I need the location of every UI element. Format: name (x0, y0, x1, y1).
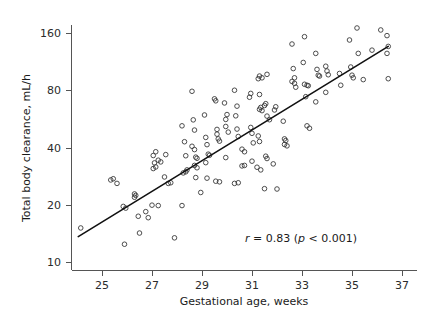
data-point (313, 100, 318, 105)
data-point (150, 203, 155, 208)
data-point (146, 215, 151, 220)
data-point (182, 139, 187, 144)
data-point (115, 181, 120, 186)
data-point (122, 242, 127, 247)
data-point (180, 124, 185, 129)
data-point (215, 132, 220, 137)
data-point (235, 104, 240, 109)
data-point (137, 231, 142, 236)
data-point (356, 51, 361, 56)
regression-line (78, 46, 388, 236)
data-point (195, 156, 200, 161)
data-point (262, 186, 267, 191)
data-points-layer (78, 26, 390, 247)
data-point (258, 168, 263, 173)
data-point (191, 118, 196, 123)
data-point (136, 214, 141, 219)
r-value-text: = 0.83 ( (250, 232, 299, 245)
data-point (192, 128, 197, 133)
data-point (317, 74, 322, 79)
data-point (193, 175, 198, 180)
data-point (251, 141, 256, 146)
data-point (378, 28, 383, 33)
data-point (192, 147, 197, 152)
data-point (202, 113, 207, 118)
data-point (225, 112, 230, 117)
data-point (203, 160, 208, 165)
p-symbol: p (297, 232, 305, 245)
y-tick-label: 40 (47, 142, 61, 155)
x-axis-title: Gestational age, weeks (180, 295, 309, 308)
data-point (223, 155, 228, 160)
data-point (233, 114, 238, 119)
data-point (163, 152, 168, 157)
data-point (235, 127, 240, 132)
x-axis-ticks: 25272931333537 (95, 271, 409, 293)
data-point (385, 51, 390, 56)
y-tick-label: 20 (47, 199, 61, 212)
x-tick-label: 27 (145, 279, 159, 292)
data-point (370, 48, 375, 53)
data-point (183, 153, 188, 158)
data-point (205, 176, 210, 181)
data-point (256, 134, 261, 139)
data-point (271, 162, 276, 167)
data-point (265, 72, 270, 77)
y-tick-label: 10 (47, 256, 61, 269)
data-point (386, 76, 391, 81)
data-point (143, 209, 148, 214)
y-axis-ticks: 10204080160 (40, 27, 72, 269)
data-point (250, 159, 255, 164)
correlation-annotation: r = 0.83 (p < 0.001) (245, 232, 357, 245)
p-value-text: < 0.001) (305, 232, 357, 245)
data-point (162, 175, 167, 180)
data-point (275, 187, 280, 192)
y-tick-label: 160 (40, 27, 61, 40)
y-axis-title: Total body clearance, mL/h (20, 74, 33, 223)
data-point (338, 83, 343, 88)
plot-canvas: 10204080160 25272931333537 Total body cl… (0, 0, 431, 320)
y-tick-label: 80 (47, 84, 61, 97)
x-tick-label: 29 (195, 279, 209, 292)
data-point (313, 51, 318, 56)
data-point (315, 67, 320, 72)
data-point (223, 124, 228, 129)
x-tick-label: 37 (395, 279, 409, 292)
data-point (301, 60, 306, 65)
data-point (257, 92, 262, 97)
data-point (215, 127, 220, 132)
data-point (323, 90, 328, 95)
data-point (361, 77, 366, 82)
scatter-plot-figure: 10204080160 25272931333537 Total body cl… (0, 0, 431, 320)
data-point (226, 130, 231, 135)
x-tick-label: 25 (95, 279, 109, 292)
data-point (385, 33, 390, 38)
x-tick-label: 33 (295, 279, 309, 292)
data-point (257, 139, 262, 144)
data-point (203, 135, 208, 140)
data-point (190, 89, 195, 94)
data-point (153, 149, 158, 154)
data-point (180, 203, 185, 208)
data-point (302, 34, 307, 39)
data-point (291, 66, 296, 71)
x-tick-label: 31 (245, 279, 259, 292)
data-point (78, 226, 83, 231)
data-point (222, 101, 227, 106)
data-point (281, 119, 286, 124)
data-point (193, 155, 198, 160)
data-point (232, 88, 237, 93)
data-point (347, 38, 352, 43)
data-point (205, 142, 210, 147)
data-point (323, 64, 328, 69)
data-point (290, 42, 295, 47)
x-tick-label: 35 (345, 279, 359, 292)
data-point (223, 117, 228, 122)
data-point (198, 190, 203, 195)
data-point (156, 203, 161, 208)
data-point (355, 26, 360, 31)
data-point (172, 236, 177, 241)
